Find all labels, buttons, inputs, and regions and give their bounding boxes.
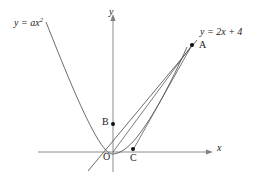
point-A: [190, 43, 194, 47]
point-label-a: A: [199, 40, 206, 50]
y-axis-label: y: [109, 7, 113, 17]
point-label-b: B: [102, 117, 109, 127]
parabola-equation-text: y = a: [14, 17, 35, 28]
line-equation-label: y = 2x + 4: [200, 27, 242, 37]
parabola-equation-label: y = ax2: [14, 17, 43, 28]
point-label-c: C: [130, 153, 137, 163]
point-C: [131, 147, 135, 151]
x-axis-label: x: [217, 143, 221, 153]
segment-A-O: [113, 45, 192, 152]
segment-A-C: [133, 45, 192, 150]
parabola-exponent: 2: [40, 16, 43, 23]
x-axis-arrowhead: [206, 149, 213, 154]
point-B: [111, 122, 115, 126]
point-label-o: O: [103, 152, 110, 162]
math-figure: y = ax2 y = 2x + 4 A B O C x y: [0, 0, 262, 177]
parabola-curve: [46, 22, 187, 154]
